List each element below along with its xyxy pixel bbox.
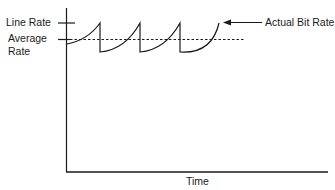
average-rate-label-line1: Average: [8, 32, 47, 44]
bit-rate-diagram: Line Rate Average Rate Actual Bit Rate T…: [0, 0, 335, 190]
arrow-head-icon: [223, 20, 231, 26]
diagram-graphics: [0, 0, 335, 190]
line-rate-label: Line Rate: [6, 16, 51, 28]
average-rate-label-line2: Rate: [8, 45, 30, 57]
x-axis-label: Time: [186, 175, 209, 187]
actual-bit-rate-curve: [67, 23, 219, 52]
actual-bit-rate-label: Actual Bit Rate: [265, 16, 334, 28]
